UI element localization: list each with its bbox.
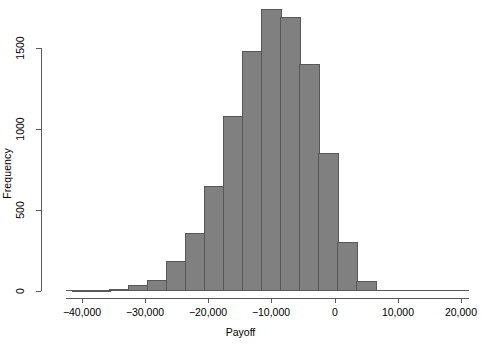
y-tick-mark bbox=[36, 129, 41, 130]
y-tick-label: 1000 bbox=[5, 114, 35, 144]
x-axis-label: Payoff bbox=[0, 326, 481, 338]
x-tick-label: 0 bbox=[300, 306, 370, 318]
x-tick-mark bbox=[461, 298, 462, 303]
histogram-bar bbox=[261, 9, 282, 291]
y-tick-label: 500 bbox=[5, 195, 35, 225]
histogram-bar bbox=[223, 116, 244, 291]
histogram-bar bbox=[166, 261, 187, 291]
histogram-chart: Frequency 050010001500 −40,000−30,000−20… bbox=[0, 0, 481, 347]
x-tick-label: −10,000 bbox=[236, 306, 306, 318]
x-tick-label: 10,000 bbox=[363, 306, 433, 318]
y-tick-label: 1500 bbox=[5, 33, 35, 63]
histogram-bar bbox=[318, 153, 339, 291]
x-tick-mark bbox=[82, 298, 83, 303]
x-tick-mark bbox=[145, 298, 146, 303]
histogram-bar bbox=[242, 51, 263, 291]
y-tick-mark bbox=[36, 48, 41, 49]
histogram-bar bbox=[299, 64, 320, 291]
y-tick-mark bbox=[36, 291, 41, 292]
x-tick-mark bbox=[398, 298, 399, 303]
histogram-bar bbox=[185, 233, 206, 291]
x-tick-label: −40,000 bbox=[47, 306, 117, 318]
histogram-bar bbox=[280, 17, 301, 291]
x-tick-mark bbox=[208, 298, 209, 303]
x-tick-label: −30,000 bbox=[110, 306, 180, 318]
histogram-bar bbox=[337, 242, 358, 291]
x-tick-mark bbox=[271, 298, 272, 303]
x-tick-label: −20,000 bbox=[173, 306, 243, 318]
y-tick-mark bbox=[36, 210, 41, 211]
x-tick-mark bbox=[335, 298, 336, 303]
histogram-bar bbox=[204, 186, 225, 291]
x-axis-line bbox=[66, 298, 469, 299]
y-tick-label: 0 bbox=[5, 276, 35, 306]
y-axis-line bbox=[41, 48, 42, 291]
histogram-baseline bbox=[66, 290, 469, 291]
x-tick-label: 20,000 bbox=[426, 306, 481, 318]
